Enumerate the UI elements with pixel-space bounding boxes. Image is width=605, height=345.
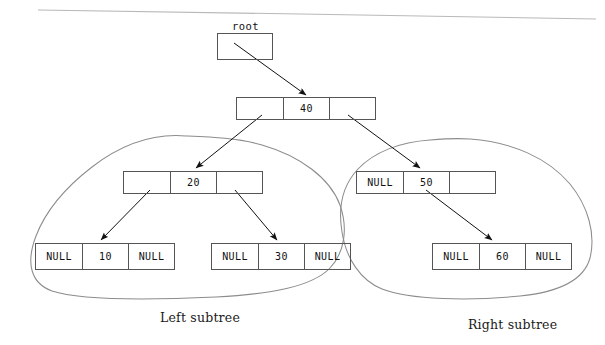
- node-30-left-pointer[interactable]: NULL: [212, 244, 258, 269]
- right-subtree-outline: [341, 139, 592, 299]
- node-60-left-pointer[interactable]: NULL: [433, 244, 479, 269]
- node-30-value: 30: [258, 244, 304, 269]
- edge-40-right-to-50: [348, 115, 420, 168]
- left-subtree-outline: [31, 136, 345, 299]
- node-50[interactable]: NULL 50: [356, 171, 496, 194]
- node-10-right-pointer[interactable]: NULL: [128, 244, 174, 269]
- node-20[interactable]: 20: [123, 171, 263, 194]
- edge-20-left-to-10: [101, 190, 150, 240]
- node-10-left-pointer[interactable]: NULL: [36, 244, 82, 269]
- node-10-value: 10: [82, 244, 128, 269]
- node-40[interactable]: 40: [236, 97, 376, 120]
- node-60-right-pointer[interactable]: NULL: [525, 244, 571, 269]
- node-30[interactable]: NULL 30 NULL: [211, 243, 351, 270]
- node-40-right-pointer[interactable]: [329, 98, 375, 119]
- node-40-value: 40: [283, 98, 329, 119]
- edge-40-left-to-20: [196, 115, 262, 168]
- node-50-right-pointer[interactable]: [449, 172, 495, 193]
- node-20-left-pointer[interactable]: [124, 172, 170, 193]
- node-10[interactable]: NULL 10 NULL: [35, 243, 175, 270]
- node-40-left-pointer[interactable]: [237, 98, 283, 119]
- right-subtree-label: Right subtree: [468, 317, 557, 332]
- root-label: root: [232, 20, 259, 32]
- edge-20-right-to-30: [235, 190, 277, 240]
- node-50-left-pointer[interactable]: NULL: [357, 172, 403, 193]
- diagram-canvas: root 40 20 NULL 50 NULL 10 NULL NULL 30 …: [0, 0, 605, 345]
- left-subtree-label: Left subtree: [160, 310, 240, 325]
- node-60-value: 60: [479, 244, 525, 269]
- edge-50-right-to-60: [426, 190, 492, 240]
- diagram-connectors-layer: [0, 0, 605, 345]
- node-60[interactable]: NULL 60 NULL: [432, 243, 572, 270]
- node-20-value: 20: [170, 172, 216, 193]
- scan-artifact-line: [38, 10, 596, 19]
- node-50-value: 50: [403, 172, 449, 193]
- root-pointer-box[interactable]: [217, 33, 273, 60]
- node-30-right-pointer[interactable]: NULL: [304, 244, 350, 269]
- node-20-right-pointer[interactable]: [216, 172, 262, 193]
